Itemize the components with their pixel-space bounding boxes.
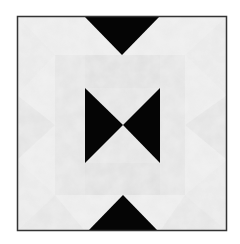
- quilt-block: [0, 0, 240, 244]
